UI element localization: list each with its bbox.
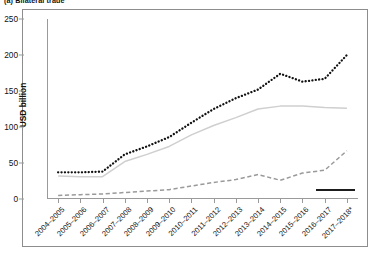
legend-key-bar — [316, 189, 355, 191]
x-axis-tick-mark — [347, 199, 348, 203]
y-axis-tick-mark — [19, 127, 24, 128]
y-axis-tick-label: 150 — [4, 86, 18, 96]
series-lines — [47, 19, 358, 199]
x-axis-tick-mark — [147, 199, 148, 203]
y-axis-tick-label: 100 — [4, 122, 18, 132]
series-line-total-trade — [58, 55, 347, 172]
y-axis-tick-mark — [19, 199, 24, 200]
plot-area — [47, 19, 358, 199]
x-axis-tick-mark — [103, 199, 104, 203]
x-axis-tick-mark — [325, 199, 326, 203]
y-axis: USD billion 050100150200250 — [0, 0, 47, 200]
y-axis-tick-label: 200 — [4, 50, 18, 60]
x-axis-tick-mark — [280, 199, 281, 203]
x-axis-tick-mark — [58, 199, 59, 203]
x-axis-tick-mark — [302, 199, 303, 203]
x-axis-tick-mark — [236, 199, 237, 203]
x-axis-tick-mark — [191, 199, 192, 203]
y-axis-tick-label: 250 — [4, 14, 18, 24]
series-line-exports — [58, 151, 347, 196]
y-axis-tick-label: 0 — [13, 194, 18, 204]
chart-figure: (a) Bilateral trade USD billion 05010015… — [0, 0, 378, 268]
y-axis-label: USD billion — [18, 60, 28, 150]
y-axis-tick-mark — [19, 163, 24, 164]
x-axis-tick-mark — [214, 199, 215, 203]
x-axis-tick-mark — [169, 199, 170, 203]
y-axis-tick-mark — [19, 19, 24, 20]
y-axis-tick-label: 50 — [9, 158, 18, 168]
x-axis-tick-mark — [125, 199, 126, 203]
x-axis-tick-mark — [80, 199, 81, 203]
y-axis-tick-mark — [19, 91, 24, 92]
x-axis: 2004–20052005–20062006–20072007–20082008… — [47, 199, 358, 259]
y-axis-tick-mark — [19, 55, 24, 56]
x-axis-tick-mark — [258, 199, 259, 203]
